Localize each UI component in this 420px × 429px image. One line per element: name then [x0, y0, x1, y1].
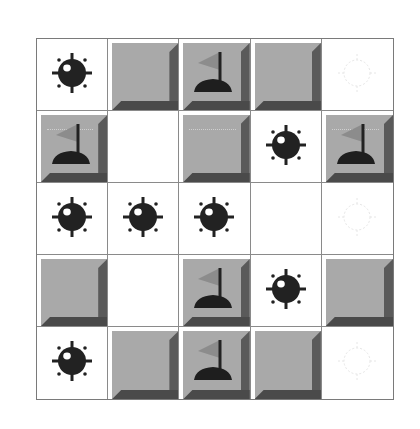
covered-tile[interactable] — [255, 43, 321, 110]
mine-icon — [191, 194, 237, 244]
mine-icon — [49, 338, 95, 388]
cell-r3-c3-mine[interactable] — [179, 183, 250, 255]
game-board — [36, 38, 394, 400]
ghost-mine-icon — [334, 338, 380, 388]
covered-tile[interactable] — [326, 259, 393, 326]
flag-icon — [188, 334, 238, 390]
flag-icon — [188, 46, 238, 102]
cell-r1-c3-flag[interactable] — [179, 39, 250, 111]
dotted-line — [189, 129, 235, 130]
flag-icon — [331, 118, 381, 174]
cell-r2-c1-flag[interactable] — [37, 111, 108, 183]
covered-tile[interactable] — [183, 115, 249, 182]
cell-r4-c2-empty[interactable] — [108, 255, 179, 327]
covered-tile[interactable] — [112, 331, 178, 399]
cell-r2-c4-mine[interactable] — [251, 111, 322, 183]
cell-r1-c4-covered[interactable] — [251, 39, 322, 111]
ghost-mine-icon — [334, 50, 380, 100]
covered-tile[interactable] — [326, 115, 393, 182]
cell-r5-c3-flag[interactable] — [179, 327, 250, 399]
cell-r2-c3-covered[interactable] — [179, 111, 250, 183]
cell-r2-c5-flag[interactable] — [322, 111, 393, 183]
flag-icon — [46, 118, 96, 174]
cell-r3-c5-ghost-mine[interactable] — [322, 183, 393, 255]
cell-r4-c5-covered[interactable] — [322, 255, 393, 327]
mine-icon — [263, 266, 309, 316]
cell-r1-c1-mine[interactable] — [37, 39, 108, 111]
mine-icon — [49, 50, 95, 100]
cell-r3-c4-empty[interactable] — [251, 183, 322, 255]
cell-r5-c2-covered[interactable] — [108, 327, 179, 399]
cell-r4-c3-flag[interactable] — [179, 255, 250, 327]
covered-tile[interactable] — [41, 259, 107, 326]
covered-tile[interactable] — [183, 43, 249, 110]
cell-r4-c1-covered[interactable] — [37, 255, 108, 327]
cell-r3-c2-mine[interactable] — [108, 183, 179, 255]
mine-icon — [49, 194, 95, 244]
cell-r5-c1-mine[interactable] — [37, 327, 108, 399]
covered-tile[interactable] — [183, 331, 249, 399]
mine-icon — [120, 194, 166, 244]
cell-r3-c1-mine[interactable] — [37, 183, 108, 255]
covered-tile[interactable] — [255, 331, 321, 399]
cell-r1-c2-covered[interactable] — [108, 39, 179, 111]
cell-r5-c4-covered[interactable] — [251, 327, 322, 399]
cell-r1-c5-ghost-mine[interactable] — [322, 39, 393, 111]
ghost-mine-icon — [334, 194, 380, 244]
cell-r2-c2-empty[interactable] — [108, 111, 179, 183]
mine-icon — [263, 122, 309, 172]
covered-tile[interactable] — [41, 115, 107, 182]
cell-r4-c4-mine[interactable] — [251, 255, 322, 327]
covered-tile[interactable] — [112, 43, 178, 110]
cell-r5-c5-ghost-mine[interactable] — [322, 327, 393, 399]
covered-tile[interactable] — [183, 259, 249, 326]
flag-icon — [188, 262, 238, 318]
